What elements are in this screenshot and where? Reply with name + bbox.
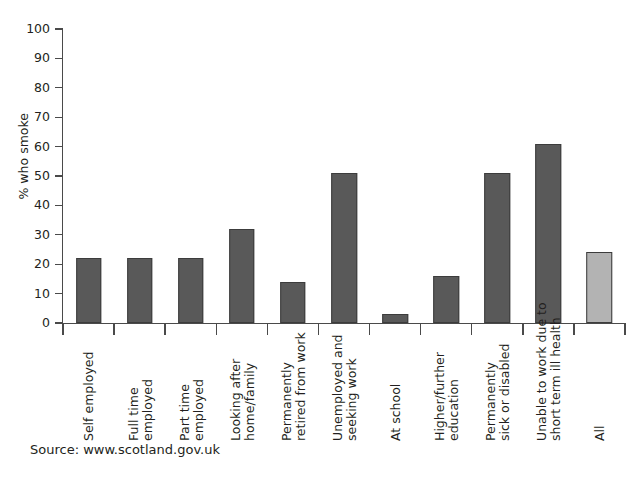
y-axis-tick (55, 28, 63, 29)
x-axis-category-label: Part time employed (178, 271, 206, 441)
x-axis-tick (573, 324, 574, 335)
y-axis-tick (55, 146, 63, 147)
y-axis-tick (55, 234, 63, 235)
y-axis-tick (55, 205, 63, 206)
x-axis-tick (113, 324, 114, 335)
x-axis-tick (420, 324, 421, 335)
y-axis-tick (55, 175, 63, 176)
x-axis-category-label: Permanently retired from work (280, 271, 308, 441)
source-note: Source: www.scotland.gov.uk (30, 442, 220, 458)
x-axis-tick (369, 324, 370, 335)
y-axis-tick (55, 264, 63, 265)
smoking-by-economic-activity-bar-chart: % who smoke 1009080706050403020100 Self … (0, 0, 640, 498)
y-axis-tick (55, 87, 63, 88)
x-axis-category-label: At school (389, 271, 403, 441)
x-axis-tick (267, 324, 268, 335)
x-axis-category-label: Unable to work due to short term ill hea… (535, 271, 563, 441)
page-bleed-through-text (120, 0, 540, 18)
y-axis-tick (55, 117, 63, 118)
y-axis-tick-label: 90 (0, 52, 50, 65)
x-axis-category-label: Full time employed (127, 271, 155, 441)
x-axis-category-label: Permanently sick or disabled (484, 271, 512, 441)
x-axis-category-label: All (593, 271, 607, 441)
x-axis-tick (62, 324, 63, 335)
y-axis-tick-label: 10 (0, 288, 50, 301)
y-axis-tick-label: 60 (0, 141, 50, 154)
x-axis-category-label: Looking after home/family (229, 271, 257, 441)
y-axis-tick-label: 0 (0, 317, 50, 330)
y-axis-tick-label: 50 (0, 170, 50, 183)
y-axis-tick-label: 20 (0, 258, 50, 271)
y-axis-tick-label: 80 (0, 82, 50, 95)
x-axis-category-label: Self employed (82, 271, 96, 441)
x-axis-tick (624, 324, 625, 335)
x-axis-tick (471, 324, 472, 335)
x-axis-tick (164, 324, 165, 335)
x-axis-tick (318, 324, 319, 335)
x-axis-category-label: Higher/further education (433, 271, 461, 441)
x-axis-category-label: Unemployed and seeking work (331, 271, 359, 441)
y-axis-tick-label: 70 (0, 111, 50, 124)
y-axis-tick-label: 40 (0, 199, 50, 212)
y-axis-tick (55, 293, 63, 294)
y-axis-tick-label: 100 (0, 23, 50, 36)
x-axis-tick (216, 324, 217, 335)
x-axis-tick (522, 324, 523, 335)
y-axis-tick-label: 30 (0, 229, 50, 242)
y-axis-tick (55, 58, 63, 59)
